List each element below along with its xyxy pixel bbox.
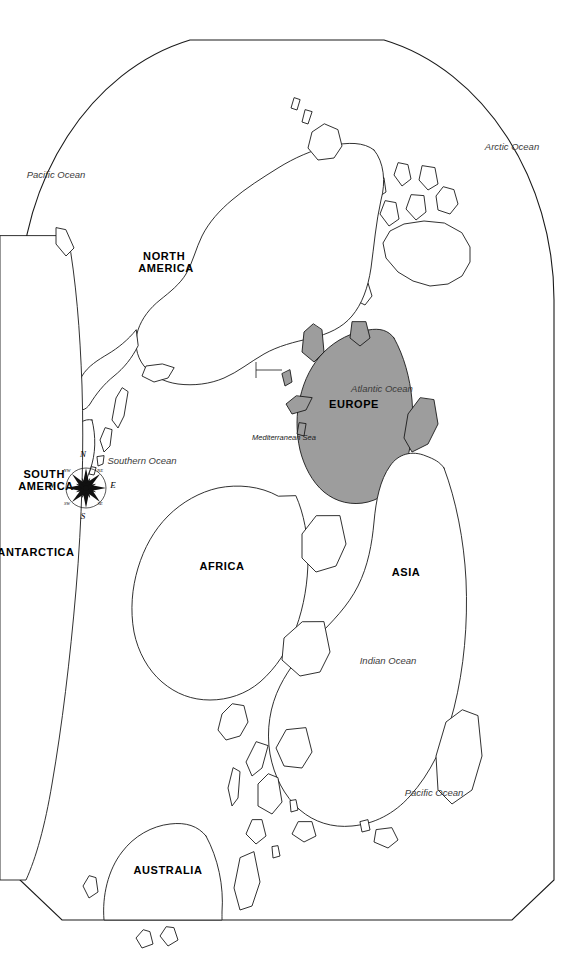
compass-center-hub [83, 485, 88, 490]
caribbean-island-small-a [97, 456, 104, 466]
label-atlantic-ocean: Atlantic Ocean [350, 383, 413, 394]
label-africa: AFRICA [199, 560, 244, 572]
new-zealand-island-north [160, 927, 178, 946]
label-europe: EUROPE [329, 398, 379, 410]
label-antarctica: ANTARCTICA [0, 546, 75, 558]
compass-label-northwest: NW [63, 468, 72, 473]
compass-label-east: E [109, 480, 116, 490]
asia-island-small-a [272, 846, 280, 858]
compass-label-south: S [81, 511, 86, 521]
label-pacific-ocean-east: Pacific Ocean [405, 787, 464, 798]
world-map-page: NORTH AMERICA SOUTH AMERICA EUROPE AFRIC… [0, 0, 574, 958]
asia-island-small-b [290, 800, 298, 812]
label-pacific-ocean-west: Pacific Ocean [27, 169, 86, 180]
label-indian-ocean: Indian Ocean [360, 655, 417, 666]
compass-label-north: N [79, 449, 87, 459]
label-north-america: NORTH AMERICA [138, 250, 194, 274]
world-map-graphic[interactable]: NORTH AMERICA SOUTH AMERICA EUROPE AFRIC… [0, 0, 574, 958]
label-asia: ASIA [392, 566, 421, 578]
label-mediterranean-sea: Mediterranean Sea [252, 433, 316, 442]
map-rotation-wrapper: NORTH AMERICA SOUTH AMERICA EUROPE AFRIC… [0, 0, 574, 958]
compass-label-southeast: SE [97, 501, 102, 506]
label-arctic-ocean: Arctic Ocean [484, 141, 539, 152]
label-southern-ocean: Southern Ocean [107, 455, 176, 466]
japan-island-small [360, 820, 370, 832]
label-australia: AUSTRALIA [134, 864, 203, 876]
compass-label-northeast: NE [96, 468, 103, 473]
new-zealand-island-south [136, 930, 153, 948]
